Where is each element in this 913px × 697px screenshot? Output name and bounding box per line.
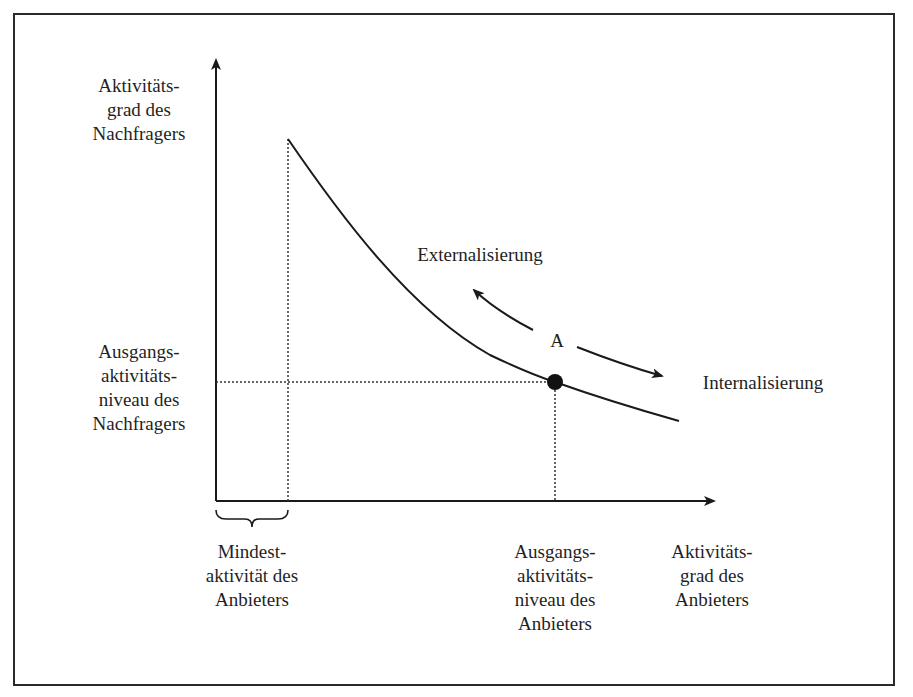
internalisierung-arrow	[577, 347, 662, 376]
y-axis-label: Aktivitäts- grad des Nachfragers	[64, 74, 214, 146]
direction-left-label: Externalisierung	[400, 243, 560, 267]
externalisierung-arrow	[474, 290, 533, 330]
x-reference-label: Ausgangs- aktivitäts- niveau des Anbiete…	[490, 540, 620, 636]
y-reference-label-line: Nachfragers	[64, 412, 214, 436]
x-min-label-line: Mindest-	[192, 540, 312, 564]
direction-right-label: Internalisierung	[683, 371, 843, 395]
activity-curve	[288, 139, 679, 421]
x-axis-label-line: Anbieters	[652, 588, 772, 612]
x-min-label: Mindest- aktivität des Anbieters	[192, 540, 312, 612]
x-axis-label: Aktivitäts- grad des Anbieters	[652, 540, 772, 612]
y-reference-label-line: niveau des	[64, 388, 214, 412]
x-axis-label-line: Aktivitäts-	[652, 540, 772, 564]
min-activity-brace	[216, 510, 288, 527]
x-min-label-line: aktivität des	[192, 564, 312, 588]
point-a-marker	[547, 374, 563, 390]
x-reference-label-line: Ausgangs-	[490, 540, 620, 564]
y-reference-label-line: aktivitäts-	[64, 364, 214, 388]
point-a-label: A	[545, 329, 569, 353]
x-min-label-line: Anbieters	[192, 588, 312, 612]
y-axis-label-line: Aktivitäts-	[64, 74, 214, 98]
x-reference-label-line: niveau des	[490, 588, 620, 612]
x-reference-label-line: Anbieters	[490, 612, 620, 636]
y-reference-label: Ausgangs- aktivitäts- niveau des Nachfra…	[64, 340, 214, 436]
y-axis-label-line: Nachfragers	[64, 122, 214, 146]
x-axis-label-line: grad des	[652, 564, 772, 588]
y-axis-label-line: grad des	[64, 98, 214, 122]
y-reference-label-line: Ausgangs-	[64, 340, 214, 364]
x-reference-label-line: aktivitäts-	[490, 564, 620, 588]
